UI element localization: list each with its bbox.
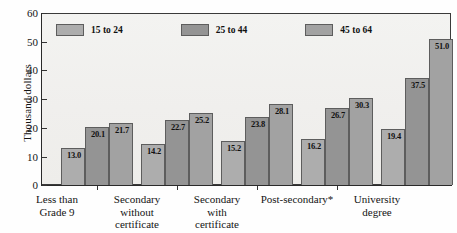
y-tick-label-20: 20 <box>8 123 38 134</box>
legend-label: 15 to 24 <box>91 25 123 35</box>
bar-secondary-with-certificate-15-to-24[interactable]: 15.2 <box>221 141 245 185</box>
bar-value-label: 28.1 <box>269 107 295 116</box>
legend: 15 to 24 25 to 44 45 to 64 <box>56 24 372 36</box>
bars-layer: 13.0 20.1 21.7 14.2 22.7 25.2 15.2 23.8 … <box>41 13 451 185</box>
x-tick-1 <box>97 186 98 190</box>
bar-value-label: 19.4 <box>381 132 407 141</box>
x-tick-3 <box>257 186 258 190</box>
bar-secondary-with-certificate-45-to-64[interactable]: 28.1 <box>269 104 293 185</box>
bar-university-degree-45-to-64[interactable]: 51.0 <box>429 39 453 185</box>
y-tick-label-10: 10 <box>8 152 38 163</box>
bar-value-label: 15.2 <box>221 144 247 153</box>
legend-swatch-icon <box>56 24 84 36</box>
bar-post-secondary-25-to-44[interactable]: 26.7 <box>325 108 349 185</box>
x-tick-4 <box>337 186 338 190</box>
bar-less-than-grade-9-15-to-24[interactable]: 13.0 <box>61 148 85 185</box>
bar-value-label: 30.3 <box>349 101 375 110</box>
y-tick-0 <box>42 185 47 186</box>
bar-value-label: 20.1 <box>85 130 111 139</box>
x-category-label-university-degree: University degree <box>329 193 425 218</box>
bar-secondary-with-certificate-25-to-44[interactable]: 23.8 <box>245 117 269 185</box>
cat-line-2: degree <box>329 206 425 219</box>
bar-chart-figure: Thousand dollars 60 50 40 30 20 10 0 13.… <box>0 0 457 233</box>
legend-item-45-to-64[interactable]: 45 to 64 <box>305 24 372 36</box>
bar-university-degree-25-to-44[interactable]: 37.5 <box>405 78 429 186</box>
legend-label: 25 to 44 <box>216 25 248 35</box>
bar-value-label: 22.7 <box>165 123 191 132</box>
bar-value-label: 37.5 <box>405 81 431 90</box>
bar-value-label: 14.2 <box>141 147 167 156</box>
bar-value-label: 13.0 <box>61 151 87 160</box>
bar-post-secondary-15-to-24[interactable]: 16.2 <box>301 139 325 185</box>
cat-line-1: University <box>329 193 425 206</box>
bar-university-degree-15-to-24[interactable]: 19.4 <box>381 129 405 185</box>
x-tick-2 <box>177 186 178 190</box>
bar-less-than-grade-9-25-to-44[interactable]: 20.1 <box>85 127 109 185</box>
bar-less-than-grade-9-45-to-64[interactable]: 21.7 <box>109 123 133 185</box>
cropped-header-remnant <box>392 0 434 6</box>
legend-swatch-icon <box>181 24 209 36</box>
cat-line-3: certificate <box>169 218 265 231</box>
bar-secondary-without-certificate-45-to-64[interactable]: 25.2 <box>189 113 213 185</box>
y-tick-label-0: 0 <box>8 180 38 191</box>
y-tick-label-50: 50 <box>8 37 38 48</box>
bar-value-label: 16.2 <box>301 142 327 151</box>
legend-item-25-to-44[interactable]: 25 to 44 <box>181 24 248 36</box>
bar-value-label: 21.7 <box>109 126 135 135</box>
x-axis-line <box>41 185 452 186</box>
bar-post-secondary-45-to-64[interactable]: 30.3 <box>349 98 373 185</box>
y-tick-label-60: 60 <box>8 8 38 19</box>
legend-swatch-icon <box>305 24 333 36</box>
bar-value-label: 23.8 <box>245 120 271 129</box>
legend-item-15-to-24[interactable]: 15 to 24 <box>56 24 123 36</box>
bar-value-label: 25.2 <box>189 116 215 125</box>
bar-value-label: 26.7 <box>325 111 351 120</box>
bar-secondary-without-certificate-25-to-44[interactable]: 22.7 <box>165 120 189 185</box>
cat-line-2: with <box>169 206 265 219</box>
y-tick-label-30: 30 <box>8 94 38 105</box>
bar-secondary-without-certificate-15-to-24[interactable]: 14.2 <box>141 144 165 185</box>
legend-label: 45 to 64 <box>340 25 372 35</box>
bar-value-label: 51.0 <box>429 42 455 51</box>
y-tick-label-40: 40 <box>8 65 38 76</box>
